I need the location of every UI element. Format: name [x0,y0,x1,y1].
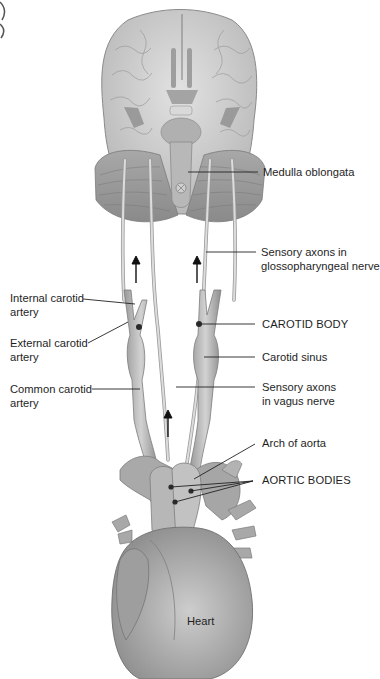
leader-lines [83,172,258,502]
label-internal-line2: artery [10,306,84,320]
label-glossopharyngeal-sensory-axons: Sensory axons in glossopharyngeal nerve [261,246,380,273]
label-common-carotid-artery: Common carotid artery [10,383,92,410]
label-vagus-sensory-axons: Sensory axons in vagus nerve [262,381,336,408]
label-external-carotid-artery: External carotid artery [10,337,88,364]
brain [95,10,265,222]
corner-mark [0,2,5,38]
left-carotid-artery [124,290,158,472]
label-arch-of-aorta: Arch of aorta [262,437,326,451]
label-medulla-oblongata: Medulla oblongata [263,166,354,180]
label-internal-carotid-artery: Internal carotid artery [10,292,84,319]
label-carotid-body: CAROTID BODY [262,318,348,332]
label-external-line2: artery [10,351,88,365]
label-vagus-line2: in vagus nerve [262,395,336,409]
label-glosso-line2: glossopharyngeal nerve [261,260,380,274]
label-common-line2: artery [10,397,92,411]
heart-shape [112,527,253,679]
label-vagus-line1: Sensory axons [262,381,336,395]
label-common-line1: Common carotid [10,383,92,397]
right-carotid-artery [190,290,221,470]
label-external-line1: External carotid [10,337,88,351]
label-carotid-sinus: Carotid sinus [262,351,327,365]
label-internal-line1: Internal carotid [10,292,84,306]
label-aortic-bodies: AORTIC BODIES [262,474,351,488]
label-heart: Heart [187,615,214,629]
label-glosso-line1: Sensory axons in [261,246,380,260]
